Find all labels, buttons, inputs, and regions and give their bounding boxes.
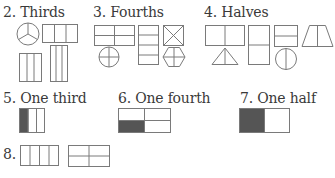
thirds-square-rect (20, 54, 42, 82)
halves-tall-rect (249, 26, 270, 65)
fourths-circle (99, 47, 119, 67)
fraction-figures (0, 0, 335, 178)
thirds-wide-rect (43, 25, 78, 43)
halves-trapezoid (302, 26, 333, 47)
thirds-circle (17, 23, 39, 45)
question-8-four-column-rect (21, 146, 59, 166)
thirds-tall-rect (51, 46, 68, 82)
fourths-tall-rect (139, 26, 159, 65)
one-half-shaded-rect (240, 108, 290, 133)
fourths-x-square (164, 26, 184, 46)
one-fourth-shaded-rect (119, 109, 171, 134)
halves-square-rect (275, 26, 298, 47)
one-third-shaded-rect (20, 108, 45, 133)
question-8-grid-rect (69, 146, 110, 167)
halves-wide-rect (206, 26, 245, 46)
halves-circle (276, 49, 297, 70)
halves-triangle (212, 48, 238, 65)
fourths-hexagon (163, 48, 185, 67)
fourths-wide-rect (95, 26, 135, 46)
